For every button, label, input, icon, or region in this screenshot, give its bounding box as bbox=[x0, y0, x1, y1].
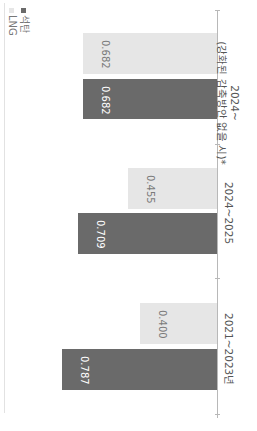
category-label-2024-2025: 2024~2025 bbox=[222, 178, 235, 248]
bar-coal-2024-2025: 0.709 bbox=[78, 213, 217, 254]
legend-swatch-lng bbox=[10, 8, 15, 13]
bar-lng-2024-2025: 0.455 bbox=[128, 168, 217, 209]
frame-line bbox=[4, 3, 5, 413]
bar-value-label: 0.400 bbox=[157, 310, 168, 339]
bar-coal-2024-no-measures: 0.682 bbox=[83, 79, 217, 119]
axis-tick bbox=[215, 278, 220, 279]
category-label-2021-2023: 2021~2023년 bbox=[222, 313, 235, 383]
bar-lng-2021-2023: 0.400 bbox=[140, 303, 217, 344]
bar-value-label: 0.455 bbox=[145, 175, 156, 204]
axis-tick bbox=[215, 414, 220, 415]
legend-item-coal: 석탄 bbox=[18, 8, 30, 36]
bar-value-label: 0.787 bbox=[79, 356, 90, 385]
bar-value-label: 0.709 bbox=[95, 220, 106, 249]
legend-swatch-coal bbox=[22, 8, 27, 13]
legend-item-lng: LNG bbox=[6, 8, 18, 36]
category-label-line: 2024~ bbox=[228, 33, 241, 173]
category-label-2024-no-measures: 2024~ (강화된 감축방안 없을 시)* bbox=[215, 33, 241, 173]
legend: 석탄 LNG bbox=[6, 8, 30, 36]
legend-label: LNG bbox=[6, 15, 18, 36]
bar-coal-2021-2023: 0.787 bbox=[62, 349, 217, 390]
category-label-line: 2024~2025 bbox=[222, 178, 235, 248]
legend-label: 석탄 bbox=[18, 15, 30, 33]
bar-lng-2024-no-measures: 0.682 bbox=[83, 33, 217, 74]
bar-value-label: 0.682 bbox=[100, 86, 111, 115]
axis-tick bbox=[215, 10, 220, 11]
category-label-line: 2021~2023년 bbox=[222, 313, 235, 383]
bar-value-label: 0.682 bbox=[100, 40, 111, 69]
category-label-line: (강화된 감축방안 없을 시)* bbox=[215, 33, 228, 173]
